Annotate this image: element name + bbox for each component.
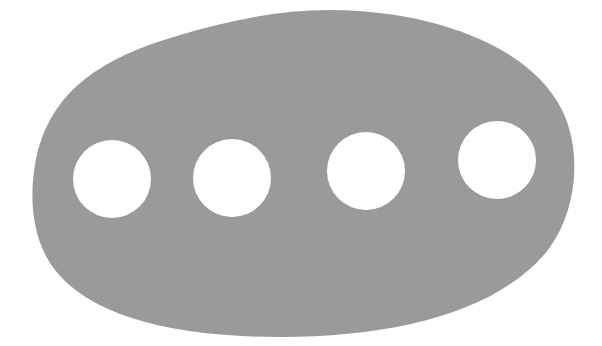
plate-diagram [0, 0, 602, 346]
gray-plate-shape [32, 10, 574, 337]
